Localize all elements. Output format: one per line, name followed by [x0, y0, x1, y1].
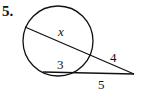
- lower-secant: [43, 72, 134, 74]
- label-4: 4: [110, 50, 117, 65]
- label-3: 3: [57, 57, 64, 72]
- upper-secant: [25, 27, 134, 74]
- label-x: x: [57, 24, 64, 39]
- label-5: 5: [98, 77, 105, 92]
- secant-diagram: x 4 3 5: [0, 0, 142, 97]
